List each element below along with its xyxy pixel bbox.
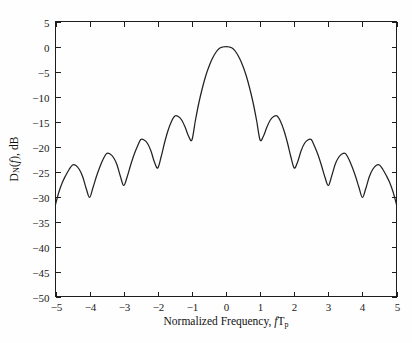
series-line-dn — [56, 47, 397, 205]
axis-frame — [56, 22, 397, 297]
chart-canvas: 50−5−10−15−20−25−30−35−40−45−50 −5−4−3−2… — [0, 0, 412, 343]
x-title-sub-p: p — [284, 320, 288, 329]
y-tick-label: −25 — [32, 167, 50, 179]
y-tick-label: −45 — [32, 267, 50, 279]
x-tick-label: 3 — [326, 301, 332, 313]
y-tick-label: 5 — [44, 17, 50, 29]
y-tick-label: −50 — [32, 292, 50, 304]
x-title-var-t: T — [277, 315, 284, 327]
x-tick-label: 0 — [224, 301, 230, 313]
x-tick-label: 5 — [395, 301, 401, 313]
y-tick-label: 0 — [44, 42, 50, 54]
y-tick-label: −5 — [38, 67, 50, 79]
x-axis-title: Normalized Frequency, fTp — [164, 315, 289, 329]
y-tick-label: −40 — [32, 242, 50, 254]
axes-group — [56, 22, 397, 297]
y-tick-label: −35 — [32, 217, 50, 229]
x-tick-label: 2 — [292, 301, 298, 313]
x-axis-ticks: −5−4−3−2−1012345 — [51, 22, 401, 313]
x-tick-label: −5 — [51, 301, 63, 313]
y-tick-label: −15 — [32, 117, 50, 129]
y-tick-label: −20 — [32, 142, 50, 154]
x-tick-label: −1 — [187, 301, 199, 313]
x-tick-label: −3 — [119, 301, 131, 313]
x-tick-label: −2 — [153, 301, 165, 313]
y-tick-label: −30 — [32, 192, 50, 204]
y-axis-ticks: 50−5−10−15−20−25−30−35−40−45−50 — [32, 17, 396, 304]
x-title-prefix: Normalized Frequency, — [164, 315, 275, 328]
x-tick-label: 4 — [360, 301, 366, 313]
x-tick-label: 1 — [258, 301, 264, 313]
x-axis-title-group: Normalized Frequency, fTp — [164, 315, 289, 329]
x-tick-label: −4 — [85, 301, 97, 313]
figure-container: 50−5−10−15−20−25−30−35−40−45−50 −5−4−3−2… — [0, 0, 412, 343]
data-series-group — [56, 47, 397, 205]
y-tick-label: −10 — [32, 92, 50, 104]
